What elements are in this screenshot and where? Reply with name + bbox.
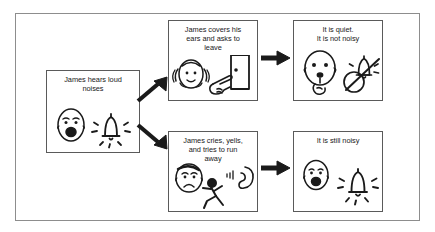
- panel-bad-behavior-text: James cries, yells, and tries to run awa…: [169, 132, 257, 164]
- panel-bad-behavior: James cries, yells, and tries to run awa…: [168, 131, 258, 212]
- panel-bad-outcome-art: [294, 153, 382, 211]
- panel-bad-behavior-art: [169, 163, 257, 211]
- panel-good-outcome: It is quiet. It is not noisy: [293, 20, 383, 101]
- arrow-down-right-icon: [136, 122, 170, 150]
- panel-good-behavior-text: James covers his ears and asks to leave: [169, 21, 257, 53]
- arrow-right-top-icon: [260, 48, 291, 68]
- panel-cause-text: James hears loud noises: [47, 71, 139, 93]
- panel-good-behavior-art: [169, 55, 257, 100]
- panel-good-outcome-text: It is quiet. It is not noisy: [294, 21, 382, 43]
- diagram-canvas: James hears loud noises: [0, 0, 435, 232]
- arrow-up-right-icon: [136, 76, 170, 104]
- panel-good-behavior: James covers his ears and asks to leave: [168, 20, 258, 101]
- arrow-right-bottom-icon: [260, 158, 291, 178]
- panel-cause: James hears loud noises: [46, 70, 140, 153]
- panel-cause-art: [47, 100, 139, 152]
- panel-good-outcome-art: [294, 44, 382, 100]
- panel-bad-outcome: It is still noisy: [293, 131, 383, 212]
- panel-bad-outcome-text: It is still noisy: [294, 132, 382, 145]
